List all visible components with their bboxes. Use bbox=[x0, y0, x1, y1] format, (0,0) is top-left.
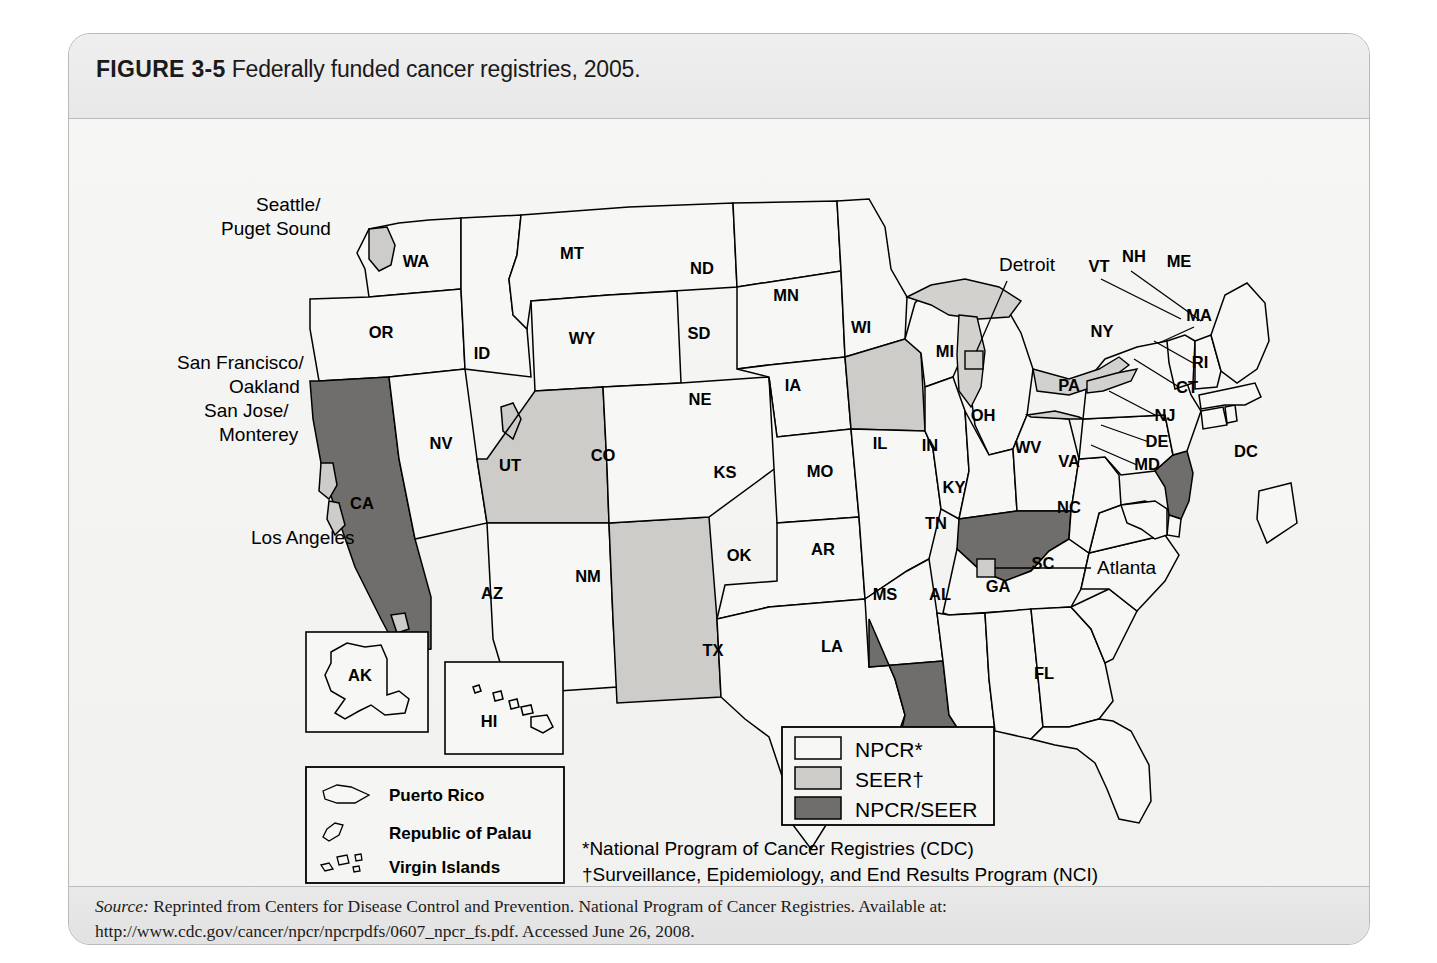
state-UT[interactable] bbox=[477, 387, 609, 523]
state-label-ID: ID bbox=[474, 344, 491, 362]
state-label-WA: WA bbox=[403, 252, 430, 270]
state-label-AK: AK bbox=[348, 666, 372, 684]
state-ME[interactable] bbox=[1211, 283, 1269, 383]
state-label-TN: TN bbox=[925, 514, 947, 532]
state-label-KY: KY bbox=[943, 478, 966, 496]
state-label-AR: AR bbox=[811, 540, 835, 558]
leader-line-VT bbox=[1101, 279, 1181, 319]
state-label-NY: NY bbox=[1091, 322, 1114, 340]
state-label-NV: NV bbox=[430, 434, 453, 452]
state-label-FL: FL bbox=[1034, 664, 1054, 682]
map-panel: WA OR CA NV ID MT WY UT AZ NM CO ND SD N… bbox=[69, 119, 1369, 888]
city-label-atlanta: Atlanta bbox=[1097, 557, 1157, 578]
state-label-HI: HI bbox=[481, 712, 498, 730]
source-caption: Source: Reprinted from Centers for Disea… bbox=[95, 894, 1345, 944]
state-label-VT: VT bbox=[1088, 257, 1109, 275]
state-label-MT: MT bbox=[560, 244, 584, 262]
state-CT[interactable] bbox=[1201, 407, 1227, 429]
state-IA[interactable] bbox=[845, 339, 925, 431]
state-label-PA: PA bbox=[1058, 376, 1080, 394]
state-label-WI: WI bbox=[851, 318, 871, 336]
territory-label-palau: Republic of Palau bbox=[389, 824, 532, 843]
state-DC[interactable] bbox=[1257, 483, 1297, 543]
state-label-OH: OH bbox=[971, 406, 996, 424]
state-WY[interactable] bbox=[531, 291, 681, 391]
legend-label-npcr: NPCR* bbox=[855, 738, 923, 761]
state-label-RI: RI bbox=[1192, 353, 1209, 371]
state-label-CT: CT bbox=[1176, 378, 1198, 396]
atlanta-marker[interactable] bbox=[977, 559, 995, 577]
state-label-OK: OK bbox=[727, 546, 752, 564]
state-label-TX: TX bbox=[702, 641, 723, 659]
state-label-MN: MN bbox=[773, 286, 799, 304]
state-label-KS: KS bbox=[714, 463, 737, 481]
source-body: Reprinted from Centers for Disease Contr… bbox=[95, 896, 947, 941]
state-label-CO: CO bbox=[591, 446, 616, 464]
legend-swatch-seer[interactable] bbox=[795, 767, 841, 789]
state-label-ND: ND bbox=[690, 259, 714, 277]
us-map: WA OR CA NV ID MT WY UT AZ NM CO ND SD N… bbox=[69, 119, 1370, 888]
state-NM[interactable] bbox=[609, 517, 721, 703]
state-MN[interactable] bbox=[837, 199, 907, 357]
state-label-UT: UT bbox=[499, 456, 521, 474]
state-label-DC: DC bbox=[1234, 442, 1258, 460]
state-label-CA: CA bbox=[350, 494, 374, 512]
territory-label-puerto-rico: Puerto Rico bbox=[389, 786, 484, 805]
city-label-seattle-line2: Puget Sound bbox=[221, 218, 331, 239]
state-label-NC: NC bbox=[1057, 498, 1081, 516]
state-label-OR: OR bbox=[369, 323, 394, 341]
footnote-npcr: *National Program of Cancer Registries (… bbox=[582, 838, 974, 859]
state-label-NE: NE bbox=[689, 390, 712, 408]
state-label-NJ: NJ bbox=[1154, 406, 1175, 424]
state-label-MD: MD bbox=[1134, 455, 1160, 473]
figure-title-text: Federally funded cancer registries, 2005… bbox=[232, 56, 641, 82]
great-lakes-erie bbox=[1027, 411, 1083, 419]
source-panel: Source: Reprinted from Centers for Disea… bbox=[69, 886, 1369, 944]
figure-header: FIGURE 3-5 Federally funded cancer regis… bbox=[69, 34, 1369, 119]
territory-label-virgin-islands: Virgin Islands bbox=[389, 858, 500, 877]
city-label-los-angeles: Los Angeles bbox=[251, 527, 355, 548]
city-label-sf-line3: San Jose/ bbox=[204, 400, 289, 421]
state-label-IA: IA bbox=[785, 376, 802, 394]
state-label-GA: GA bbox=[986, 577, 1011, 595]
state-label-NH: NH bbox=[1122, 247, 1146, 265]
state-FL[interactable] bbox=[1031, 719, 1151, 823]
state-label-DE: DE bbox=[1146, 432, 1169, 450]
figure-container: FIGURE 3-5 Federally funded cancer regis… bbox=[68, 33, 1370, 945]
footnote-seer: †Surveillance, Epidemiology, and End Res… bbox=[582, 864, 1098, 885]
legend-label-npcr-seer: NPCR/SEER bbox=[855, 798, 978, 821]
page-title: FIGURE 3-5 Federally funded cancer regis… bbox=[96, 56, 640, 83]
state-label-MS: MS bbox=[873, 585, 898, 603]
state-label-SD: SD bbox=[688, 324, 711, 342]
state-DE[interactable] bbox=[1167, 515, 1181, 537]
leader-line-NH bbox=[1131, 271, 1201, 321]
hawaii-inset-box[interactable] bbox=[445, 662, 563, 754]
legend-label-seer: SEER† bbox=[855, 768, 924, 791]
figure-number: FIGURE 3-5 bbox=[96, 56, 226, 82]
state-label-WY: WY bbox=[569, 329, 596, 347]
city-label-detroit: Detroit bbox=[999, 254, 1056, 275]
state-label-IN: IN bbox=[922, 436, 939, 454]
state-label-MI: MI bbox=[936, 342, 954, 360]
city-label-sf-line1: San Francisco/ bbox=[177, 352, 304, 373]
city-label-seattle-line1: Seattle/ bbox=[256, 194, 321, 215]
state-label-MA: MA bbox=[1186, 306, 1212, 324]
detroit-marker[interactable] bbox=[965, 351, 983, 369]
state-label-LA: LA bbox=[821, 637, 843, 655]
state-label-NM: NM bbox=[575, 567, 601, 585]
state-label-IL: IL bbox=[873, 434, 888, 452]
state-label-WV: WV bbox=[1015, 438, 1042, 456]
state-label-AZ: AZ bbox=[481, 584, 503, 602]
state-label-VA: VA bbox=[1058, 452, 1080, 470]
source-label: Source: bbox=[95, 896, 149, 916]
city-label-sf-line4: Monterey bbox=[219, 424, 299, 445]
state-label-ME: ME bbox=[1167, 252, 1192, 270]
city-label-sf-line2: Oakland bbox=[229, 376, 300, 397]
state-label-SC: SC bbox=[1032, 554, 1055, 572]
legend-swatch-npcr[interactable] bbox=[795, 737, 841, 759]
legend-swatch-npcr-seer[interactable] bbox=[795, 797, 841, 819]
state-RI[interactable] bbox=[1225, 405, 1237, 423]
state-label-AL: AL bbox=[929, 585, 951, 603]
state-label-MO: MO bbox=[807, 462, 834, 480]
